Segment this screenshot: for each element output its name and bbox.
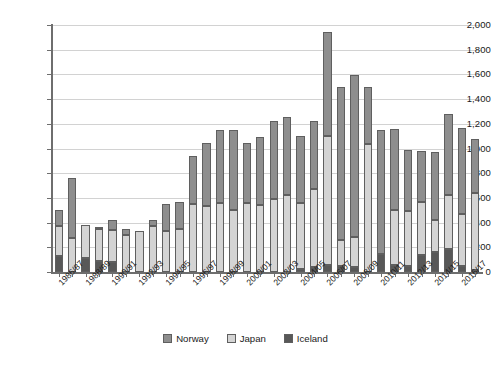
legend-swatch-japan (227, 334, 236, 343)
legend-label-norway: Norway (176, 333, 209, 344)
bar-2007-08[interactable] (337, 87, 345, 272)
bar-2012-13[interactable] (404, 150, 412, 272)
x-tick-mark (99, 272, 100, 277)
x-tick-mark (153, 272, 154, 277)
bar-segment-norway (404, 150, 412, 210)
bar-segment-japan (404, 211, 412, 266)
bar-segment-japan (471, 193, 479, 270)
bar-segment-norway (390, 129, 398, 210)
x-tick-mark (314, 272, 315, 277)
bar-segment-norway (68, 178, 76, 238)
bar-segment-norway (310, 121, 318, 188)
bar-2004-05[interactable] (296, 136, 304, 272)
x-tick-mark (475, 272, 476, 277)
bar-segment-norway (175, 202, 183, 229)
legend-swatch-iceland (284, 334, 293, 343)
bar-2013-14[interactable] (417, 151, 425, 272)
x-tick-mark (180, 272, 181, 277)
bar-segment-norway (108, 220, 116, 230)
bar-segment-norway (283, 117, 291, 196)
bar-segment-norway (55, 210, 63, 227)
bar-segment-japan (189, 204, 197, 272)
bar-segment-norway (337, 87, 345, 240)
bar-segment-norway (270, 121, 278, 199)
x-tick-mark (287, 272, 288, 277)
legend-item-iceland: Iceland (284, 333, 328, 344)
bar-series-container (52, 25, 482, 272)
bar-segment-japan (390, 210, 398, 264)
x-tick-mark (260, 272, 261, 277)
bar-segment-norway (323, 32, 331, 136)
x-tick-mark (341, 272, 342, 277)
bar-segment-norway (229, 130, 237, 210)
bar-2008-09[interactable] (350, 75, 358, 272)
bar-segment-japan (108, 230, 116, 262)
bar-segment-norway (202, 143, 210, 205)
x-tick-mark (368, 272, 369, 277)
bar-segment-japan (95, 229, 103, 260)
bar-segment-japan (444, 195, 452, 249)
y-tick-mark (47, 272, 52, 273)
x-tick-mark (72, 272, 73, 277)
legend-swatch-norway (163, 334, 172, 343)
bar-2010-11[interactable] (377, 130, 385, 272)
bar-1998-99[interactable] (216, 130, 224, 272)
bar-segment-japan (216, 203, 224, 272)
bar-segment-norway (377, 130, 385, 254)
bar-2003-04[interactable] (283, 117, 291, 272)
x-tick-mark (422, 272, 423, 277)
bar-segment-norway (417, 151, 425, 202)
bar-1999-00[interactable] (229, 130, 237, 272)
bar-2014-15[interactable] (431, 152, 439, 272)
bar-1994-95[interactable] (162, 204, 170, 272)
bar-1997-98[interactable] (202, 143, 210, 272)
bar-2000-01[interactable] (243, 143, 251, 272)
bar-segment-japan (81, 225, 89, 258)
x-tick-mark (448, 272, 449, 277)
bar-segment-japan (310, 189, 318, 268)
legend-label-japan: Japan (240, 333, 266, 344)
x-tick-mark (233, 272, 234, 277)
bar-segment-japan (296, 203, 304, 268)
bar-2015-16[interactable] (444, 114, 452, 272)
bar-2002-03[interactable] (270, 121, 278, 272)
bar-segment-norway (444, 114, 452, 196)
bar-segment-norway (471, 139, 479, 193)
bar-segment-japan (55, 226, 63, 256)
bar-segment-iceland (55, 256, 63, 272)
bar-segment-norway (296, 136, 304, 203)
x-tick-mark (126, 272, 127, 277)
bar-1987-88[interactable] (68, 178, 76, 272)
bar-segment-japan (270, 199, 278, 272)
bar-segment-japan (323, 136, 331, 264)
bar-segment-norway (216, 130, 224, 203)
bar-segment-japan (431, 220, 439, 252)
bar-segment-japan (243, 203, 251, 272)
bar-2006-07[interactable] (323, 32, 331, 272)
legend-label-iceland: Iceland (297, 333, 328, 344)
bar-segment-norway (431, 152, 439, 220)
bar-segment-japan (417, 202, 425, 255)
bar-segment-iceland (431, 252, 439, 272)
legend-item-norway: Norway (163, 333, 209, 344)
bar-segment-japan (364, 144, 372, 272)
chart-legend: Norway Japan Iceland (0, 333, 491, 344)
x-tick-mark (207, 272, 208, 277)
bar-segment-norway (350, 75, 358, 237)
bar-segment-norway (256, 137, 264, 205)
bar-2005-06[interactable] (310, 121, 318, 272)
chart-root: 02004006008001,0001,2001,4001,6001,8002,… (0, 0, 491, 367)
bar-segment-norway (243, 143, 251, 203)
bar-segment-norway (364, 87, 372, 144)
x-tick-mark (395, 272, 396, 277)
bar-2001-02[interactable] (256, 137, 264, 272)
bar-2017-18[interactable] (471, 139, 479, 272)
bar-2011-12[interactable] (390, 129, 398, 272)
bar-1996-97[interactable] (189, 156, 197, 272)
legend-item-japan: Japan (227, 333, 266, 344)
bar-2016-17[interactable] (458, 128, 466, 272)
bar-segment-norway (458, 128, 466, 213)
bar-1986-87[interactable] (55, 210, 63, 272)
bar-segment-norway (189, 156, 197, 204)
bar-2009-10[interactable] (364, 87, 372, 272)
